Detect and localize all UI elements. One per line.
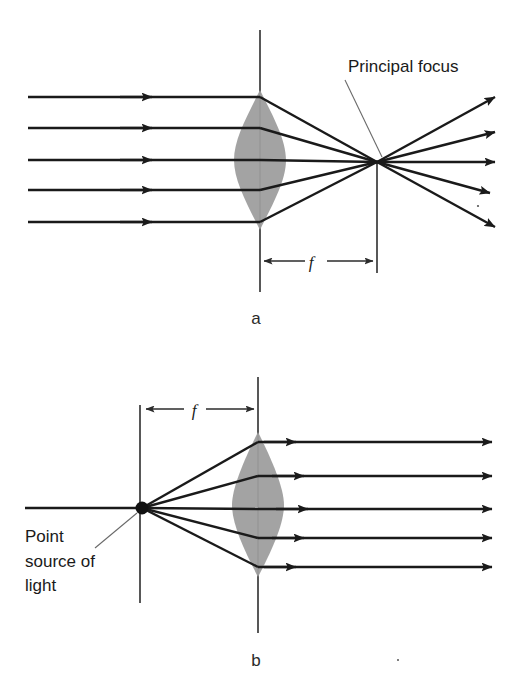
- converging-lens-b: [232, 432, 284, 577]
- point-source-label-line-2: source of: [25, 552, 95, 571]
- optics-figure: f Principal focus a: [0, 0, 517, 680]
- print-speck-a: [477, 205, 479, 207]
- point-source-label-line-1: Point: [25, 527, 64, 546]
- source-ray-b-3: [142, 508, 258, 509]
- ray-diagram-canvas: f Principal focus a: [0, 0, 517, 680]
- diverging-ray-a-2: [377, 132, 495, 162]
- panel-b: f Point source of light b: [25, 377, 492, 670]
- print-speck-b: [397, 659, 399, 661]
- point-source-label-line-3: light: [25, 576, 56, 595]
- diverging-ray-a-4: [377, 162, 490, 193]
- panel-letter-b: b: [251, 651, 260, 670]
- point-source-leader-line: [95, 513, 137, 548]
- panel-a: f Principal focus a: [28, 30, 495, 328]
- diverging-ray-a-1: [377, 97, 495, 162]
- diverging-ray-a-5: [377, 162, 495, 227]
- panel-letter-a: a: [251, 309, 261, 328]
- point-source-dot: [136, 502, 149, 515]
- principal-focus-label: Principal focus: [348, 57, 459, 76]
- principal-focus-leader-line: [345, 80, 382, 157]
